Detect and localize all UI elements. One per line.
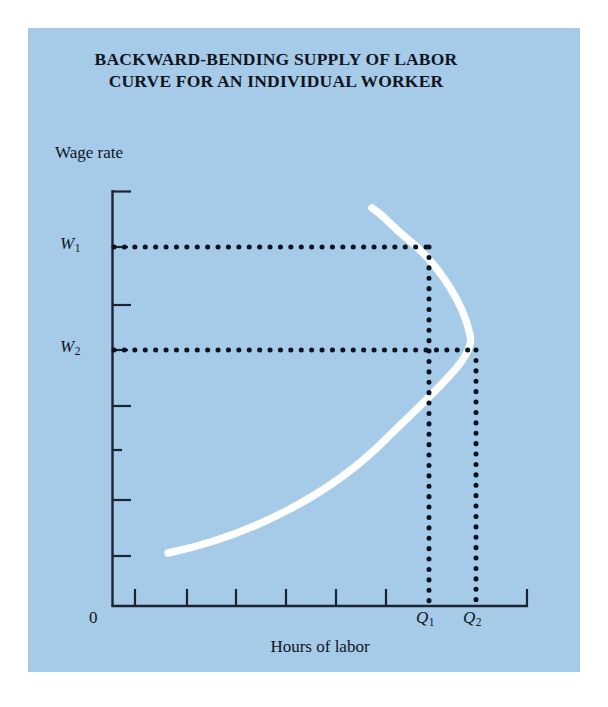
origin-label: 0 xyxy=(89,608,98,628)
figure-panel xyxy=(28,28,580,672)
figure-title: BACKWARD-BENDING SUPPLY OF LABOR CURVE F… xyxy=(56,48,496,92)
w1-subscript: 1 xyxy=(75,242,81,254)
x-tick-label-q2: Q2 xyxy=(463,608,481,628)
q1-letter: Q xyxy=(416,608,428,627)
w2-subscript: 2 xyxy=(75,345,81,357)
figure-title-line-1: BACKWARD-BENDING SUPPLY OF LABOR xyxy=(56,48,496,70)
x-tick-label-q1: Q1 xyxy=(416,608,434,628)
figure-title-line-2: CURVE FOR AN INDIVIDUAL WORKER xyxy=(56,70,496,92)
w2-letter: W xyxy=(60,337,74,356)
x-axis-title: Hours of labor xyxy=(112,637,528,657)
w1-letter: W xyxy=(60,234,74,253)
q2-subscript: 2 xyxy=(476,616,482,628)
y-axis-title: Wage rate xyxy=(55,143,123,163)
y-tick-label-w2: W2 xyxy=(60,337,80,357)
figure-page: BACKWARD-BENDING SUPPLY OF LABOR CURVE F… xyxy=(0,0,608,707)
y-tick-label-w1: W1 xyxy=(60,234,80,254)
q1-subscript: 1 xyxy=(429,616,435,628)
q2-letter: Q xyxy=(463,608,475,627)
